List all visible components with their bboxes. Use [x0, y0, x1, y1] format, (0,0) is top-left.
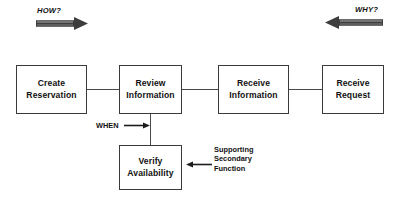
connector-create-to-review: [86, 89, 120, 90]
node-verify-availability[interactable]: Verify Availability: [119, 145, 182, 190]
node-line-1: Receive: [237, 78, 270, 90]
thick-right-arrow-icon: [36, 17, 88, 30]
node-review-information[interactable]: Review Information: [119, 65, 182, 114]
thick-left-arrow-icon: [325, 16, 383, 29]
annotation-line-1: Supporting: [214, 145, 253, 154]
thin-right-arrow-icon: [124, 121, 150, 130]
connector-review-to-verify: [150, 113, 151, 146]
connector-receive-information-to-receive-request: [288, 89, 323, 90]
thin-left-arrow-icon: [186, 160, 212, 169]
diagram-canvas: HOW? WHY? Create Reservation Review Info…: [0, 0, 397, 205]
node-line-2: Request: [336, 90, 371, 102]
connector-review-to-receive-information: [181, 89, 219, 90]
node-create-reservation[interactable]: Create Reservation: [16, 65, 87, 114]
banner-label-how: HOW?: [37, 6, 61, 15]
node-line-2: Information: [126, 90, 174, 102]
annotation-supporting-secondary-function: Supporting Secondary Function: [214, 145, 253, 173]
node-line-2: Reservation: [26, 90, 76, 102]
node-line-1: Receive: [336, 78, 369, 90]
node-line-1: Review: [135, 78, 165, 90]
annotation-line-3: Function: [214, 164, 253, 173]
annotation-label-when: WHEN: [96, 121, 119, 130]
node-receive-information[interactable]: Receive Information: [218, 65, 289, 114]
node-receive-request[interactable]: Receive Request: [322, 65, 384, 114]
node-line-1: Create: [38, 78, 65, 90]
node-line-2: Availability: [127, 168, 173, 180]
annotation-line-2: Secondary: [214, 154, 253, 163]
node-line-2: Information: [229, 90, 277, 102]
node-line-1: Verify: [138, 156, 162, 168]
banner-label-why: WHY?: [355, 5, 378, 14]
